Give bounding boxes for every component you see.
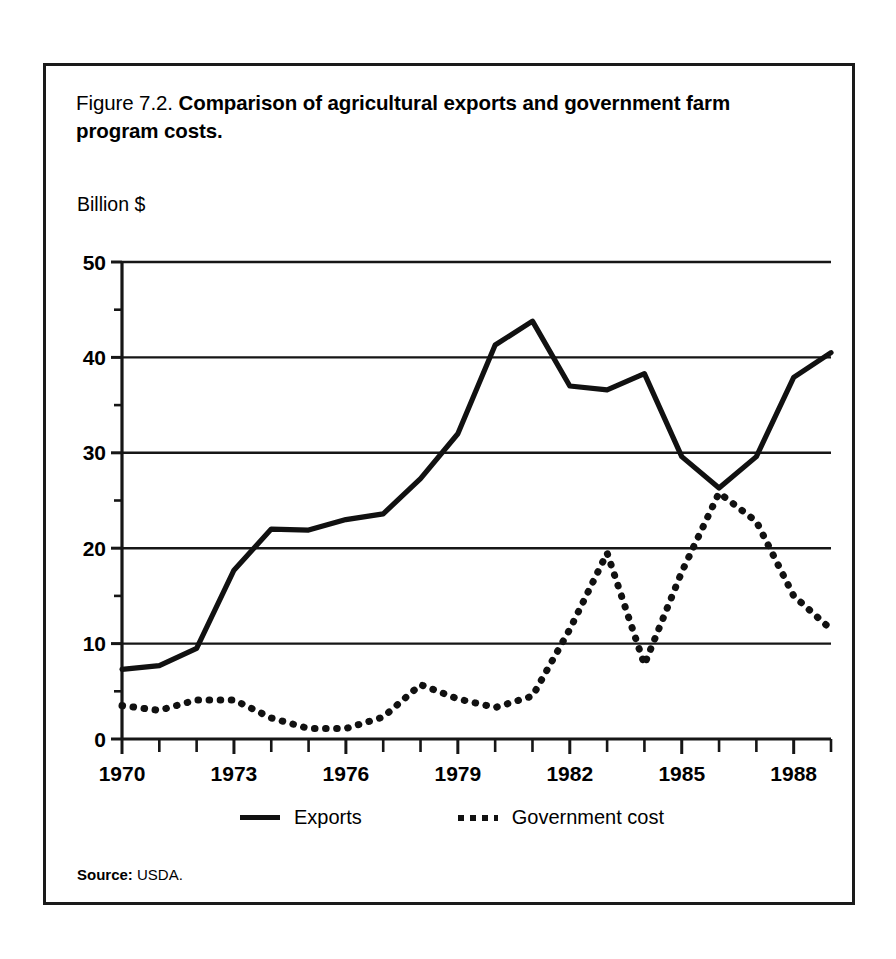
legend-item-exports[interactable]: Exports [240, 806, 362, 829]
y-axis-tick-label: 50 [83, 251, 106, 274]
x-axis-tick-label: 1970 [99, 762, 146, 785]
legend-label-exports: Exports [294, 806, 362, 829]
legend-item-government-cost[interactable]: Government cost [458, 806, 664, 829]
x-axis-tick-label: 1973 [211, 762, 258, 785]
legend-swatch-dotted-icon [458, 815, 498, 821]
x-axis-tick-label: 1985 [658, 762, 705, 785]
chart-plot-area: 010203040501970197319761979198219851988 [46, 66, 858, 908]
x-axis-tick-label: 1976 [323, 762, 370, 785]
y-axis-tick-label: 0 [94, 728, 106, 751]
x-axis-tick-label: 1979 [434, 762, 481, 785]
legend-label-government-cost: Government cost [512, 806, 664, 829]
x-axis-tick-label: 1982 [546, 762, 593, 785]
source-note: Source: USDA. [77, 866, 183, 883]
y-axis-tick-label: 40 [83, 346, 106, 369]
source-value: USDA. [137, 866, 183, 883]
y-axis-tick-label: 20 [83, 537, 106, 560]
source-label: Source: [77, 866, 133, 883]
x-axis-tick-label: 1988 [770, 762, 817, 785]
y-axis-tick-label: 10 [83, 632, 106, 655]
chart-legend: Exports Government cost [46, 806, 858, 829]
y-axis-tick-label: 30 [83, 441, 106, 464]
figure-frame: Figure 7.2. Comparison of agricultural e… [43, 63, 855, 905]
series-line-government-cost [122, 493, 831, 729]
legend-swatch-solid-icon [240, 815, 280, 820]
